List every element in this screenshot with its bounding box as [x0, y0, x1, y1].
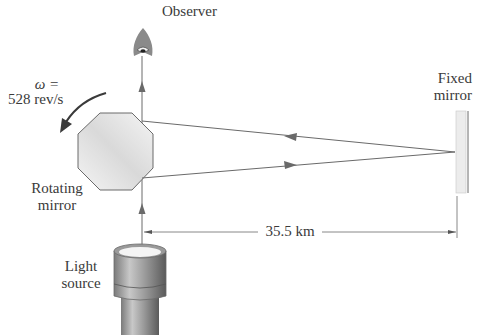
dimension-arrow-left-icon	[144, 230, 152, 234]
observer-eye-icon	[133, 28, 152, 56]
fixed-mirror	[456, 111, 466, 193]
light-source-label-line2: source	[56, 275, 106, 292]
omega-value-label: 528 rev/s	[8, 91, 63, 108]
arrow-right-icon	[284, 161, 297, 169]
dimension-arrow-right-icon	[448, 230, 456, 234]
rotating-mirror	[78, 113, 153, 190]
distance-label: 35.5 km	[258, 223, 322, 240]
light-source-icon	[114, 244, 166, 335]
arrow-up-lower-icon	[139, 203, 146, 214]
ray-outgoing	[142, 152, 455, 178]
arrow-up-upper-icon	[139, 81, 146, 92]
rotating-mirror-label-line1: Rotating	[22, 180, 92, 197]
observer-label: Observer	[162, 3, 217, 20]
fixed-mirror-label-line1: Fixed	[420, 70, 472, 87]
light-source-label-line1: Light	[56, 258, 106, 275]
rotating-mirror-label-line2: mirror	[22, 197, 92, 214]
arrow-left-icon	[284, 133, 297, 141]
ray-returning	[142, 121, 455, 152]
fixed-mirror-label-line2: mirror	[420, 87, 472, 104]
